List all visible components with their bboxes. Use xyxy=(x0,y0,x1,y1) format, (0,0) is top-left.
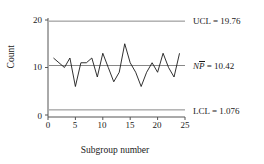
y-tick-label-10: 10 xyxy=(16,63,42,72)
y-axis-title: Count xyxy=(7,29,17,85)
center-annotation-value: 10.42 xyxy=(214,61,234,71)
x-tick-label-0: 0 xyxy=(38,121,58,130)
ucl-annotation-equals: = xyxy=(211,16,221,26)
center-line-annotation: NP = 10.42 xyxy=(193,62,234,71)
x-axis-title: Subgroup number xyxy=(40,146,190,156)
center-annotation-pbar: P xyxy=(199,62,205,71)
x-tick-label-5: 5 xyxy=(65,121,85,130)
x-tick-label-10: 10 xyxy=(92,121,112,130)
ucl-annotation-value: 19.76 xyxy=(220,16,240,26)
x-tick-label-25: 25 xyxy=(175,121,195,130)
lcl-annotation: LCL = 1.076 xyxy=(193,107,240,116)
lcl-annotation-equals: = xyxy=(210,106,220,116)
center-annotation-equals: = xyxy=(205,61,215,71)
y-tick-label-0: 0 xyxy=(16,112,42,121)
ucl-annotation: UCL = 19.76 xyxy=(193,17,241,26)
ucl-annotation-label: UCL xyxy=(193,16,211,26)
x-tick-label-15: 15 xyxy=(120,121,140,130)
lcl-annotation-value: 1.076 xyxy=(219,106,239,116)
y-tick-label-20: 20 xyxy=(16,16,42,25)
x-tick-label-20: 20 xyxy=(147,121,167,130)
lcl-annotation-label: LCL xyxy=(193,106,210,116)
np-control-chart: 0 10 20 0 5 10 15 20 25 Count Subgroup n… xyxy=(0,0,264,164)
